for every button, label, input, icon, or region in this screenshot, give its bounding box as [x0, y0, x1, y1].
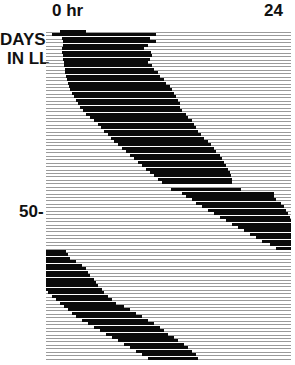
activity-bar	[67, 78, 164, 81]
activity-bar	[68, 308, 130, 311]
activity-bar	[171, 188, 241, 191]
day-baseline	[46, 249, 291, 250]
activity-bar	[62, 47, 144, 50]
day-baseline	[46, 259, 291, 260]
activity-bar	[46, 284, 98, 287]
activity-bar	[214, 212, 288, 215]
activity-bar	[83, 109, 182, 112]
day-baseline	[46, 252, 291, 253]
activity-bar	[130, 346, 188, 349]
activity-bar	[108, 133, 201, 136]
activity-bar	[192, 198, 276, 201]
activity-bar	[134, 157, 222, 160]
day-baseline	[46, 255, 291, 256]
activity-bar	[118, 143, 211, 146]
day-baseline	[46, 331, 291, 332]
x-axis-end-label: 24	[264, 2, 283, 19]
activity-bar	[56, 298, 112, 301]
day-baseline	[46, 328, 291, 329]
activity-bar	[88, 322, 154, 325]
activity-bar	[154, 174, 231, 177]
activity-bar	[256, 236, 291, 239]
day-baseline	[46, 190, 291, 191]
activity-bar	[63, 54, 152, 57]
activity-bar	[78, 102, 180, 105]
activity-bar	[48, 291, 104, 294]
y-axis-tick-50: 50-	[19, 203, 44, 220]
activity-bar	[226, 219, 291, 222]
day-baseline	[46, 324, 291, 325]
activity-bar	[52, 33, 156, 36]
day-baseline	[46, 238, 291, 239]
day-baseline	[46, 245, 291, 246]
y-axis-title-line1: DAYS	[0, 31, 46, 48]
day-baseline	[46, 242, 291, 243]
day-baseline	[46, 262, 291, 263]
activity-bar	[46, 260, 76, 263]
activity-bar	[101, 126, 196, 129]
activity-bar	[244, 229, 291, 232]
activity-bar	[148, 357, 198, 360]
activity-bar	[46, 274, 90, 277]
x-axis-start-label: 0 hr	[52, 2, 83, 19]
activity-bar	[65, 71, 158, 74]
activity-bar	[270, 243, 291, 246]
activity-bar	[46, 267, 86, 270]
activity-bar	[70, 88, 172, 91]
activity-bar	[126, 150, 216, 153]
day-baseline	[46, 187, 291, 188]
activity-bar	[142, 164, 226, 167]
actogram-plot	[46, 30, 291, 360]
activity-bar	[63, 40, 156, 43]
activity-bar	[74, 95, 176, 98]
activity-bar	[162, 181, 232, 184]
activity-bar	[100, 329, 164, 332]
activity-bar	[202, 205, 284, 208]
activity-bar	[94, 119, 192, 122]
y-axis-title-line2: IN LL	[7, 50, 50, 67]
activity-bar	[276, 247, 291, 250]
activity-bar	[46, 253, 68, 256]
activity-bar	[118, 339, 178, 342]
activity-bar	[142, 353, 196, 356]
activity-bar	[76, 315, 142, 318]
activity-bar	[64, 64, 152, 67]
